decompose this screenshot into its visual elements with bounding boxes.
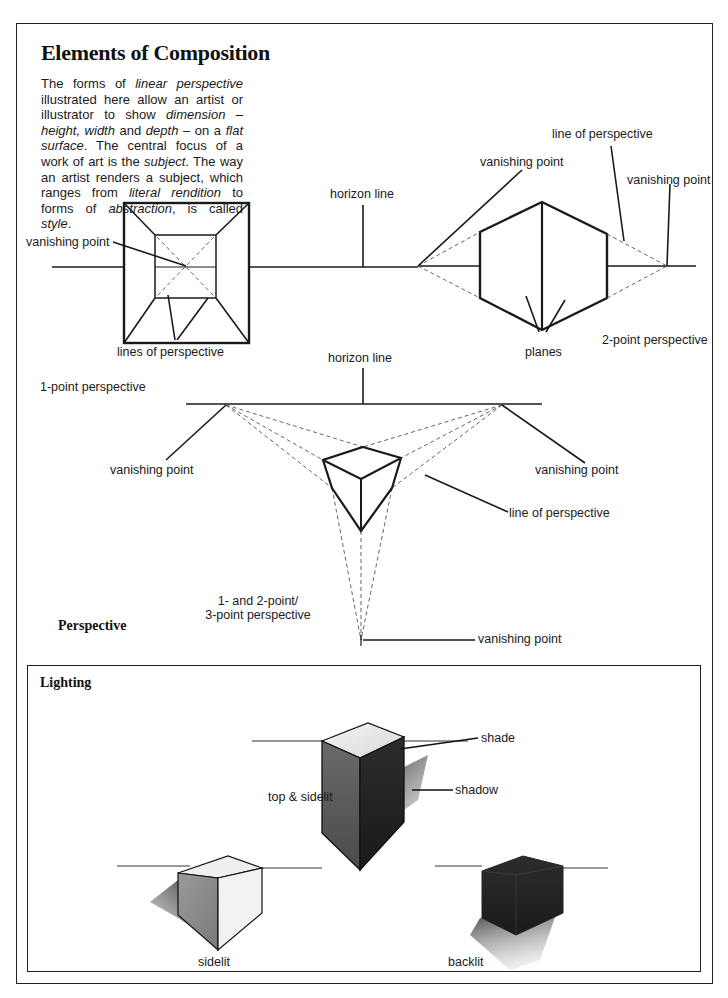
label-vanishing-point-right-3pt: vanishing point [535, 463, 618, 477]
caption-top-sidelit: top & sidelit [268, 790, 333, 804]
caption-2-point: 2-point perspective [602, 333, 708, 347]
label-vanishing-point-left-3pt: vanishing point [110, 463, 193, 477]
label-shadow: shadow [455, 783, 498, 797]
caption-3-point-line2: 3-point perspective [202, 608, 314, 622]
caption-backlit: backlit [448, 955, 483, 969]
label-planes: planes [525, 345, 562, 359]
label-line-of-perspective-3pt: line of perspective [509, 506, 610, 520]
cube-sidelit [117, 856, 322, 950]
caption-1-point: 1-point perspective [40, 380, 146, 394]
label-line-of-perspective-2pt: line of perspective [552, 127, 653, 141]
perspective-diagrams [0, 0, 728, 998]
label-vanishing-point-bottom-3pt: vanishing point [478, 632, 561, 646]
label-lines-of-perspective: lines of perspective [117, 345, 224, 359]
section-title-lighting: Lighting [40, 675, 91, 691]
label-vanishing-point-1pt: vanishing point [26, 235, 109, 249]
label-horizon-line-3pt: horizon line [328, 351, 392, 365]
caption-sidelit: sidelit [198, 955, 230, 969]
label-vanishing-point-left-2pt: vanishing point [480, 155, 563, 169]
section-title-perspective: Perspective [58, 618, 126, 634]
label-horizon-line: horizon line [330, 187, 394, 201]
caption-3-point: 1- and 2-point/ 3-point perspective [202, 594, 314, 622]
label-shade: shade [481, 731, 515, 745]
label-vanishing-point-right-2pt: vanishing point [627, 173, 710, 187]
cube-backlit [435, 856, 608, 970]
caption-3-point-line1: 1- and 2-point/ [202, 594, 314, 608]
